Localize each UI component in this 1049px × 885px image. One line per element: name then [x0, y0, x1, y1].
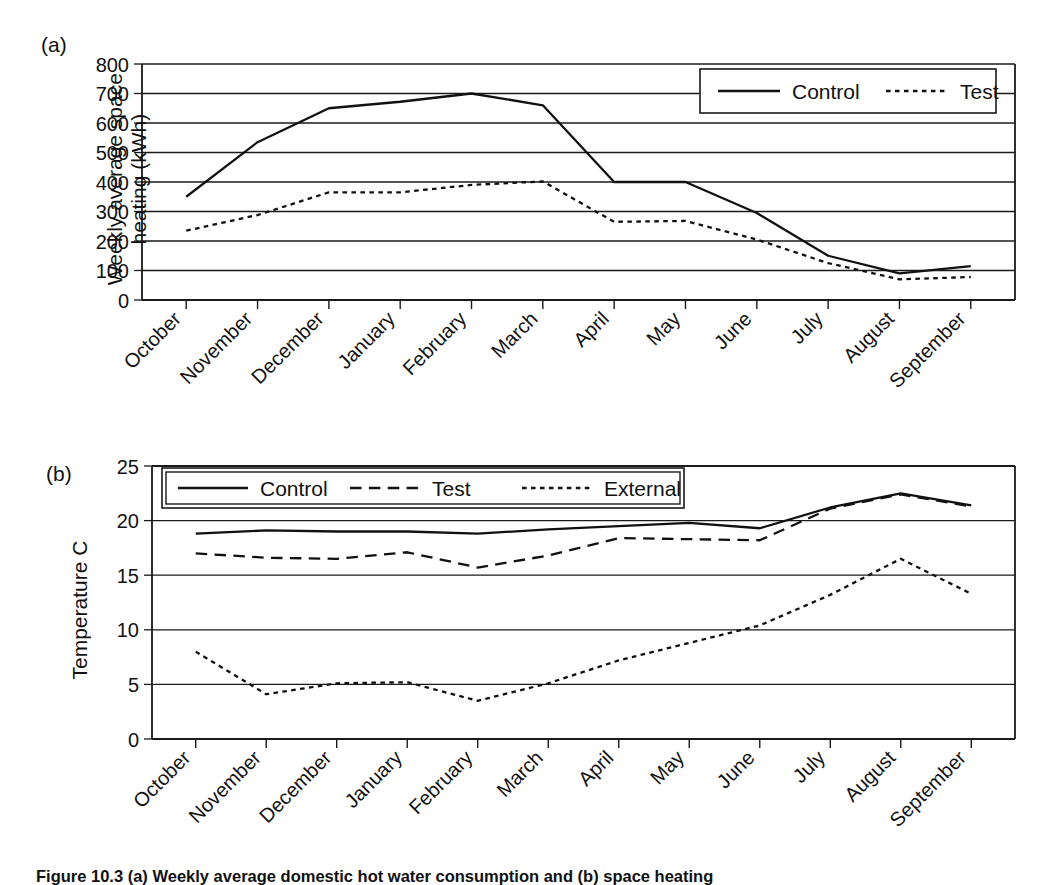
x-tick-label: September [885, 746, 970, 831]
panel-b-label: (b) [46, 462, 72, 486]
figure-caption: Figure 10.3 (a) Weekly average domestic … [36, 866, 1026, 885]
x-tick-label: March [487, 307, 542, 362]
x-tick-label: January [340, 746, 406, 812]
panel-a-label: (a) [41, 33, 67, 57]
x-tick-label: December [255, 746, 336, 827]
legend-label-control: Control [260, 477, 328, 500]
chart-panel-b: (b) Temperature C 0510152025OctoberNovem… [0, 430, 1049, 850]
x-tick-label: May [646, 746, 688, 788]
legend-label-test: Test [432, 477, 471, 500]
panel-b-plot: 0510152025OctoberNovemberDecemberJanuary… [0, 430, 1049, 850]
series-line-test [186, 181, 971, 279]
x-tick-label: August [839, 307, 899, 367]
y-tick-label: 20 [117, 510, 139, 532]
x-tick-label: March [492, 746, 547, 801]
y-tick-label: 5 [128, 674, 139, 696]
chart-panel-a: (a) Weekly average space heating (kWh) 0… [0, 0, 1049, 430]
legend-label-test: Test [960, 80, 999, 103]
y-tick-label: 0 [128, 729, 139, 751]
x-tick-label: September [885, 307, 970, 392]
x-tick-label: June [712, 746, 758, 792]
x-tick-label: February [398, 307, 470, 379]
x-tick-label: August [840, 746, 900, 806]
x-tick-label: July [788, 746, 829, 787]
y-tick-label: 10 [117, 619, 139, 641]
panel-a-plot: 0100200300400500600700800OctoberNovember… [0, 0, 1049, 430]
panel-a-y-axis-title: Weekly average space heating (kWh) [103, 44, 151, 314]
x-tick-label: December [247, 307, 328, 388]
x-tick-label: January [333, 307, 399, 373]
y-tick-label: 25 [117, 456, 139, 478]
x-tick-label: May [642, 307, 684, 349]
series-line-control [186, 94, 971, 274]
x-tick-label: April [569, 307, 613, 351]
x-tick-label: November [176, 307, 257, 388]
panel-b-y-axis-title: Temperature C [68, 500, 92, 720]
legend-label-external: External [604, 477, 681, 500]
x-tick-label: October [119, 307, 185, 373]
y-tick-label: 15 [117, 565, 139, 587]
x-tick-label: November [184, 746, 265, 827]
x-tick-label: April [574, 746, 618, 790]
x-tick-label: October [129, 746, 195, 812]
x-tick-label: February [404, 746, 476, 818]
x-tick-label: July [786, 307, 827, 348]
legend-label-control: Control [792, 80, 860, 103]
figure-container: (a) Weekly average space heating (kWh) 0… [0, 0, 1049, 885]
x-tick-label: June [709, 307, 755, 353]
